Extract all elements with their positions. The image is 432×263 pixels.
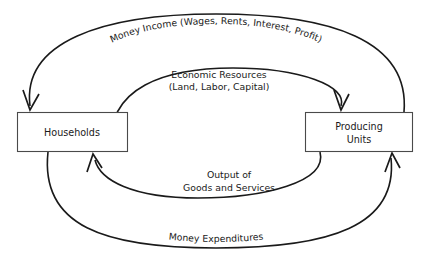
entity-producing-units[interactable]: Producing Units — [306, 113, 413, 152]
label-economic-resources-line1: Economic Resources — [171, 69, 267, 80]
label-output-goods-services-line2: Goods and Services — [183, 182, 275, 193]
producing-units-label-line1: Producing — [335, 121, 383, 132]
label-money-expenditures-text: Money Expenditures — [168, 230, 264, 244]
arrowhead-money-expenditures — [385, 153, 400, 172]
diagram-canvas: Households Producing Units Money Income … — [0, 0, 432, 263]
producing-units-label-line2: Units — [347, 134, 372, 145]
households-label: Households — [44, 127, 100, 138]
label-money-expenditures: Money Expenditures — [168, 230, 264, 244]
entity-households[interactable]: Households — [18, 113, 128, 152]
producing-units-box — [306, 113, 413, 152]
label-output-goods-services-line1: Output of — [207, 169, 252, 180]
circular-flow-diagram: Households Producing Units Money Income … — [0, 0, 432, 263]
arrowhead-money-income — [23, 90, 39, 110]
label-economic-resources-line2: (Land, Labor, Capital) — [169, 81, 270, 92]
